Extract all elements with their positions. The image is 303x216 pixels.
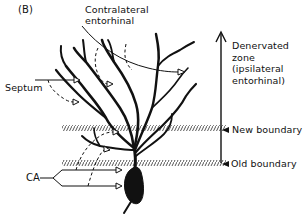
panel-label: (B) — [18, 4, 33, 15]
denervated-line2: zone — [232, 52, 289, 64]
contralateral-line1: Contralateral — [85, 4, 149, 15]
denervated-line3: (ipsilateral — [232, 63, 289, 75]
denervated-line4: entorhinal) — [232, 75, 289, 87]
neuron-diagram — [0, 0, 303, 216]
ca-afferent — [40, 129, 122, 189]
contralateral-line2: entorhinal — [85, 15, 149, 26]
old-boundary-label: Old boundary — [231, 158, 297, 169]
new-boundary-label: New boundary — [232, 124, 302, 135]
denervated-line1: Denervated — [232, 40, 289, 52]
soma — [124, 167, 143, 204]
ca-label: CA — [26, 172, 40, 183]
old-boundary-band — [62, 160, 226, 166]
denervated-zone-arrow — [216, 32, 226, 163]
denervated-zone-label: Denervated zone (ipsilateral entorhinal) — [232, 40, 289, 86]
contralateral-entorhinal-label: Contralateral entorhinal — [85, 4, 149, 26]
septum-label: Septum — [5, 82, 43, 93]
